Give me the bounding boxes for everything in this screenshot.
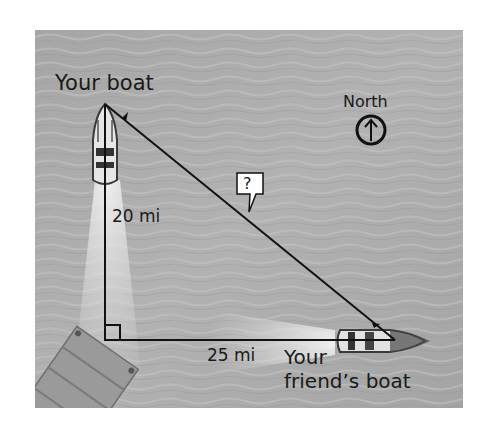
horizontal-leg-label: 25 mi: [207, 347, 255, 364]
hypotenuse-label: ?: [243, 176, 252, 192]
angle-mark-top: [122, 112, 128, 122]
right-angle-marker: [105, 325, 120, 340]
triangle-overlay: [0, 0, 486, 431]
vertical-leg-label: 20 mi: [112, 208, 160, 225]
friends-boat-label-line1: Your: [284, 347, 327, 367]
diagram-scene: Your boat North ? 20 mi 25 mi Your frien…: [0, 0, 486, 431]
north-arrow-icon: [357, 116, 385, 144]
your-boat-label: Your boat: [55, 73, 154, 94]
friends-boat-label-line2: friend’s boat: [284, 371, 411, 391]
north-label: North: [343, 94, 388, 110]
